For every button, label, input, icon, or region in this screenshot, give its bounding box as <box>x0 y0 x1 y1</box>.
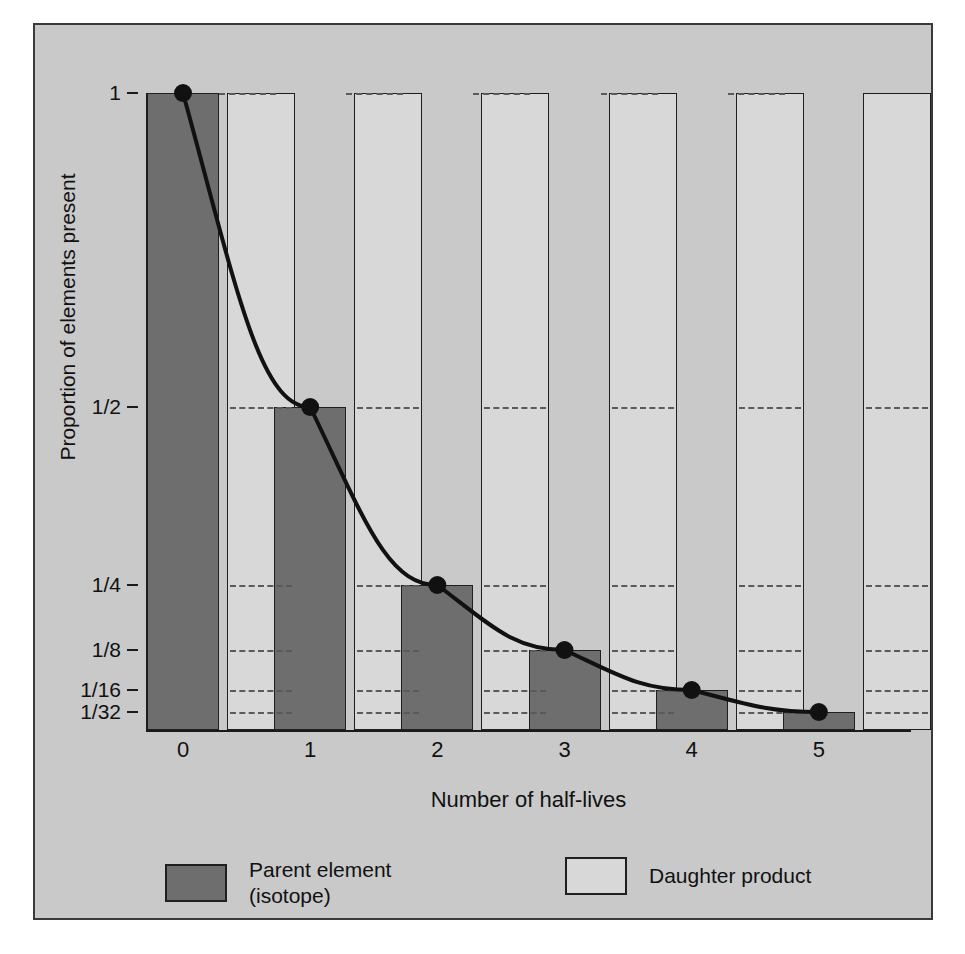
y-tick-label: 1/32 <box>80 700 121 724</box>
gridline <box>357 407 419 409</box>
gridline <box>739 712 801 714</box>
gridline <box>230 690 292 692</box>
gridline <box>866 690 928 692</box>
parent-bar <box>401 585 473 730</box>
gridline-top <box>219 93 276 95</box>
gridline <box>230 585 292 587</box>
y-tick-label: 1/8 <box>92 638 121 662</box>
y-tick-mark <box>127 584 138 586</box>
daughter-bar <box>863 93 931 730</box>
gridline <box>866 712 928 714</box>
gridline <box>866 650 928 652</box>
daughter-bar <box>481 93 549 730</box>
gridline <box>484 585 546 587</box>
gridline <box>739 407 801 409</box>
gridline <box>612 585 674 587</box>
gridline <box>230 712 292 714</box>
y-tick-label-group: 11/21/41/81/161/32 <box>35 93 121 730</box>
y-tick-label: 1/2 <box>92 395 121 419</box>
y-tick-mark <box>127 649 138 651</box>
gridline <box>612 407 674 409</box>
y-tick-mark <box>127 711 138 713</box>
x-tick-label: 2 <box>431 737 443 763</box>
y-tick-label: 1/16 <box>80 678 121 702</box>
chart-legend: Parent element (isotope) Daughter produc… <box>147 851 910 913</box>
legend-entry-daughter: Daughter product <box>565 857 811 895</box>
gridline <box>484 650 546 652</box>
y-tick-mark <box>127 689 138 691</box>
parent-bar <box>783 712 855 730</box>
x-tick-label: 0 <box>177 737 189 763</box>
daughter-bar <box>736 93 804 730</box>
gridline <box>612 650 674 652</box>
gridline <box>739 690 801 692</box>
gridline <box>612 690 674 692</box>
gridline <box>866 407 928 409</box>
daughter-bar <box>609 93 677 730</box>
legend-label-daughter: Daughter product <box>649 863 811 889</box>
gridline <box>612 712 674 714</box>
y-tick-mark <box>127 92 138 94</box>
parent-bar <box>656 690 728 730</box>
parent-swatch-icon <box>165 864 227 902</box>
legend-label-parent: Parent element (isotope) <box>249 857 391 908</box>
legend-entry-parent: Parent element (isotope) <box>165 857 391 908</box>
gridline <box>739 585 801 587</box>
gridline-top <box>346 93 403 95</box>
gridline <box>484 712 546 714</box>
x-tick-label: 1 <box>304 737 316 763</box>
y-tick-mark <box>127 406 138 408</box>
gridline <box>357 585 419 587</box>
gridline <box>739 650 801 652</box>
gridline <box>357 712 419 714</box>
x-tick-label: 3 <box>558 737 570 763</box>
gridline <box>866 585 928 587</box>
plot-area <box>147 93 910 730</box>
x-axis-line <box>146 730 911 732</box>
y-axis-ticks: 11/21/41/81/161/32 <box>35 93 147 730</box>
x-tick-label: 4 <box>686 737 698 763</box>
gridline-top <box>473 93 530 95</box>
y-tick-label: 1 <box>109 81 121 105</box>
x-axis-title: Number of half-lives <box>147 787 910 813</box>
daughter-swatch-icon <box>565 857 627 895</box>
gridline <box>484 407 546 409</box>
gridline-top <box>601 93 658 95</box>
figure-frame: Proportion of elements present 11/21/41/… <box>33 23 933 920</box>
gridline <box>230 650 292 652</box>
gridline <box>230 407 292 409</box>
parent-bar <box>147 93 219 730</box>
parent-bar <box>274 407 346 730</box>
gridline <box>484 690 546 692</box>
y-tick-label: 1/4 <box>92 573 121 597</box>
gridline <box>357 690 419 692</box>
gridline <box>357 650 419 652</box>
gridline-top <box>728 93 785 95</box>
x-tick-label: 5 <box>813 737 825 763</box>
